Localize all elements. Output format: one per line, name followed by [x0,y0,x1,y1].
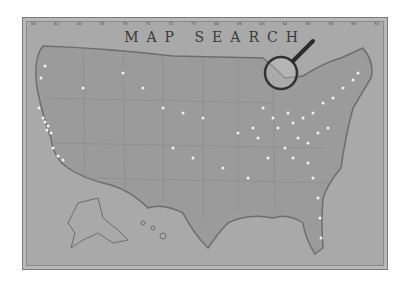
us-map [23,18,387,269]
us-mainland [36,46,372,254]
hawaii [141,221,166,239]
map-frame: 84 82 80 78 76 74 72 70 68 66 64 62 60 5… [22,17,388,270]
map-title: MAP SEARCH [23,29,387,45]
alaska [68,198,128,248]
